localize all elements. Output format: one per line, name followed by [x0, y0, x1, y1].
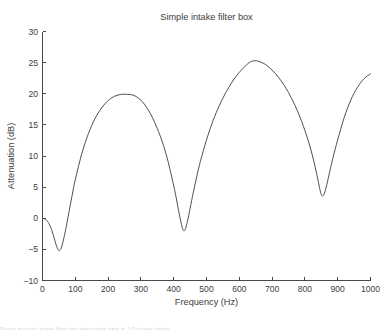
x-axis-label: Frequency (Hz)	[175, 297, 238, 307]
x-tick-label: 600	[232, 284, 247, 294]
y-tick-label: 0	[33, 213, 38, 223]
x-tick-label: 200	[101, 284, 116, 294]
y-tick-label: 10	[28, 151, 38, 161]
attenuation-line-chart: −10−505101520253001002003004005006007008…	[0, 0, 382, 330]
x-tick-label: 100	[68, 284, 83, 294]
figure-container: −10−505101520253001002003004005006007008…	[0, 0, 382, 330]
x-tick-label: 500	[199, 284, 214, 294]
x-tick-label: 300	[134, 284, 149, 294]
x-tick-label: 800	[298, 284, 313, 294]
x-tick-label: 900	[331, 284, 346, 294]
x-tick-label: 0	[40, 284, 45, 294]
x-tick-label: 400	[167, 284, 182, 294]
x-tick-label: 700	[265, 284, 280, 294]
y-tick-label: 30	[28, 27, 38, 37]
y-tick-label: −5	[28, 244, 38, 254]
chart-title: Simple intake filter box	[160, 12, 253, 22]
y-axis-label: Attenuation (dB)	[6, 123, 16, 189]
y-tick-label: 15	[28, 120, 38, 130]
axis-frame	[43, 32, 371, 281]
y-tick-label: 5	[33, 182, 38, 192]
figure-caption-clipped: Figure acoustic intake filter box attenu…	[0, 323, 382, 330]
data-curve	[43, 61, 371, 251]
x-tick-label: 1000	[361, 284, 380, 294]
y-tick-label: 20	[28, 89, 38, 99]
y-tick-label: 25	[28, 58, 38, 68]
y-tick-label: −10	[23, 276, 38, 286]
